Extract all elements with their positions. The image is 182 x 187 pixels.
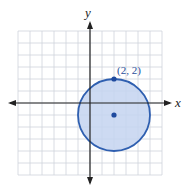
coordinate-plane: x y (2, 2) bbox=[0, 0, 182, 187]
point-on-circle bbox=[111, 76, 116, 81]
point-label: (2, 2) bbox=[117, 64, 141, 77]
x-axis-label: x bbox=[174, 95, 181, 110]
arrow-right-icon bbox=[164, 100, 172, 106]
arrow-left-icon bbox=[8, 100, 16, 106]
arrow-up-icon bbox=[87, 21, 93, 29]
arrow-down-icon bbox=[87, 177, 93, 185]
y-axis-label: y bbox=[83, 5, 91, 20]
center-point bbox=[111, 112, 116, 117]
